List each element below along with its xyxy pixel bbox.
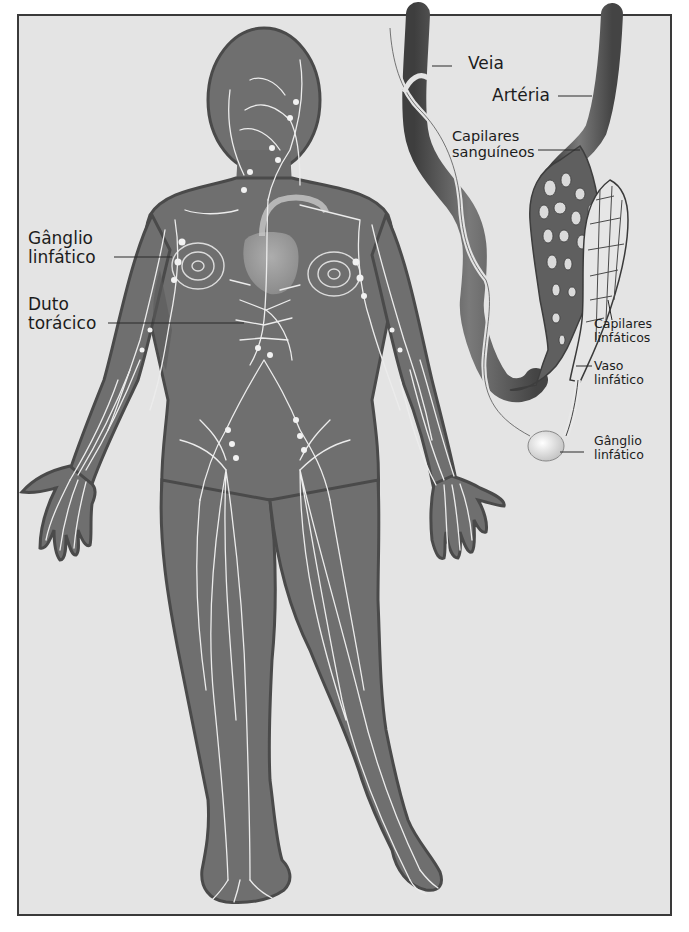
lymphatic-system-illustration: [0, 0, 689, 932]
left-hand: [22, 466, 95, 560]
label-line: Capilares: [594, 317, 652, 331]
lymph-vessel: [566, 380, 578, 436]
label-line: linfático: [594, 448, 644, 462]
label-line: sanguíneos: [452, 144, 535, 160]
label-duto-toracico: Duto torácico: [28, 295, 96, 333]
label-capilares-linfaticos: Capilares linfáticos: [594, 317, 652, 345]
label-ganglio-linfatico-body: Gânglio linfático: [28, 229, 96, 267]
right-hand: [431, 476, 505, 558]
label-capilares-sanguineos: Capilares sanguíneos: [452, 128, 535, 160]
label-line: Gânglio: [28, 229, 96, 248]
label-vaso-linfatico: Vaso linfático: [594, 359, 644, 387]
label-line: linfático: [28, 248, 96, 267]
label-line: Veia: [468, 53, 504, 73]
label-line: linfáticos: [594, 331, 652, 345]
label-line: linfático: [594, 373, 644, 387]
label-line: Duto: [28, 295, 96, 314]
label-arteria: Artéria: [492, 86, 550, 105]
label-line: torácico: [28, 314, 96, 333]
label-ganglio-linfatico-detail: Gânglio linfático: [594, 434, 644, 462]
label-line: Vaso: [594, 359, 644, 373]
label-line: Gânglio: [594, 434, 644, 448]
label-line: Artéria: [492, 85, 550, 105]
detail-lymph-node: [528, 431, 564, 461]
label-line: Capilares: [452, 128, 535, 144]
label-veia: Veia: [468, 54, 504, 73]
right-arm: [372, 215, 456, 490]
